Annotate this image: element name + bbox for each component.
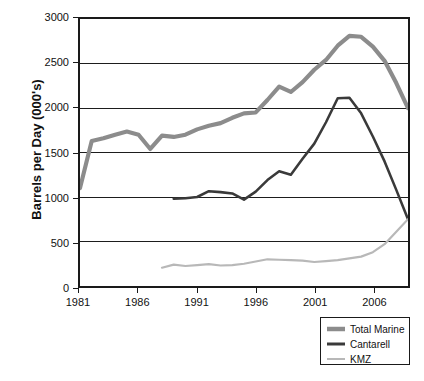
legend-label-total-marine: Total Marine xyxy=(350,324,404,335)
x-tick-label: 2001 xyxy=(285,296,345,308)
x-tick-label: 1996 xyxy=(226,296,286,308)
y-tick-label: 0 xyxy=(9,282,69,294)
x-tick-label: 1986 xyxy=(107,296,167,308)
legend-swatch-cantarell xyxy=(327,340,345,348)
y-tick-label: 3000 xyxy=(9,11,69,23)
x-tick-mark xyxy=(137,288,138,293)
x-tick-mark xyxy=(374,288,375,293)
x-tick-mark xyxy=(256,288,257,293)
x-tick-mark xyxy=(315,288,316,293)
chart-legend: Total Marine Cantarell KMZ xyxy=(320,317,410,365)
legend-label-kmz: KMZ xyxy=(350,354,371,365)
y-tick-label: 500 xyxy=(9,237,69,249)
legend-item-total-marine: Total Marine xyxy=(327,322,409,336)
chart-figure: Barrels per Day (000's) 0500100015002000… xyxy=(0,0,424,381)
legend-item-cantarell: Cantarell xyxy=(327,337,409,351)
y-tick-label: 2500 xyxy=(9,56,69,68)
x-tick-label: 1991 xyxy=(167,296,227,308)
y-tick-label: 1500 xyxy=(9,147,69,159)
legend-item-kmz: KMZ xyxy=(327,352,409,366)
y-tick-label: 2000 xyxy=(9,101,69,113)
x-tick-mark xyxy=(78,288,79,293)
legend-swatch-total-marine xyxy=(327,325,345,333)
x-tick-label: 1981 xyxy=(48,296,108,308)
x-tick-mark xyxy=(197,288,198,293)
series-line-cantarell xyxy=(174,98,408,219)
series-lines xyxy=(80,19,408,286)
legend-label-cantarell: Cantarell xyxy=(350,339,390,350)
x-tick-label: 2006 xyxy=(344,296,404,308)
series-line-kmz xyxy=(162,219,408,268)
plot-area xyxy=(78,17,410,288)
legend-swatch-kmz xyxy=(327,355,345,363)
y-tick-label: 1000 xyxy=(9,192,69,204)
